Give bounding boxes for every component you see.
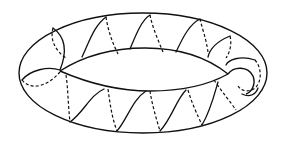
torus-hole-bottom-edge [60, 71, 228, 91]
helix-front-segments [22, 15, 258, 131]
torus-hole-top-edge [60, 48, 228, 74]
torus-inner-tube-right [228, 68, 254, 94]
torus-figure [0, 0, 282, 141]
torus-drawing [0, 0, 282, 141]
